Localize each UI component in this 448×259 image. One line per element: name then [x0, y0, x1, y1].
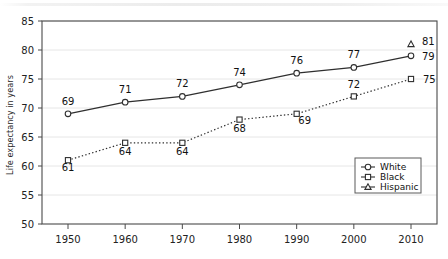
series-hispanic-marker-0: [408, 41, 414, 47]
series-white: [65, 53, 414, 117]
life-expectancy-chart: 5055606570758085 19501960197019801990200…: [0, 0, 448, 259]
series-black: [65, 76, 413, 162]
legend-swatch-white-marker-0: [365, 164, 371, 170]
series-white-marker-0: [65, 111, 71, 117]
data-label-black-2000: 72: [347, 79, 360, 90]
x-axis-ticks: 1950196019701980199020002010: [55, 224, 423, 245]
data-label-white-1960: 71: [119, 84, 132, 95]
y-tick-label-70: 70: [21, 103, 34, 114]
series-white-marker-4: [294, 70, 300, 76]
y-tick-label-85: 85: [21, 16, 34, 27]
y-tick-label-80: 80: [21, 45, 34, 56]
series-white-marker-5: [351, 65, 357, 71]
data-label-black-1960: 64: [119, 146, 132, 157]
x-tick-label-1980: 1980: [227, 234, 252, 245]
data-label-white-1970: 72: [176, 78, 189, 89]
series-black-marker-2: [180, 140, 185, 145]
x-tick-label-1990: 1990: [284, 234, 309, 245]
legend-label-white: White: [380, 162, 407, 172]
series-black-marker-5: [351, 94, 356, 99]
scan-artifact-line: [0, 3, 448, 6]
y-axis-ticks: 5055606570758085: [21, 16, 42, 230]
x-tick-label-2010: 2010: [398, 234, 423, 245]
legend-swatch-black-marker-1: [365, 174, 370, 179]
data-label-black-1970: 64: [176, 146, 189, 157]
series-white-marker-3: [237, 82, 243, 88]
x-tick-label-1960: 1960: [112, 234, 137, 245]
data-label-black-1980: 68: [233, 123, 246, 134]
y-tick-label-65: 65: [21, 132, 34, 143]
series-white-marker-2: [180, 94, 186, 100]
series-white-marker-6: [408, 53, 414, 59]
series-black-marker-6: [408, 76, 413, 81]
data-label-hispanic-2010: 81: [422, 36, 435, 47]
series-hispanic: [408, 41, 414, 47]
legend-label-black: Black: [380, 172, 405, 182]
data-label-white-1950: 69: [62, 96, 75, 107]
chart-legend[interactable]: WhiteBlackHispanic: [355, 158, 421, 193]
y-axis-title-text: Life expectancy in years: [5, 75, 15, 175]
data-series: [65, 41, 414, 163]
x-tick-label-2000: 2000: [341, 234, 366, 245]
data-label-white-2010: 79: [422, 51, 435, 62]
y-tick-label-60: 60: [21, 161, 34, 172]
data-label-white-1980: 74: [233, 67, 246, 78]
y-axis-title: Life expectancy in years: [5, 75, 15, 175]
chart-canvas: 5055606570758085 19501960197019801990200…: [0, 0, 448, 259]
y-tick-label-50: 50: [21, 219, 34, 230]
data-label-white-1990: 76: [290, 55, 303, 66]
data-point-labels: 697172747677796164646869727581: [62, 36, 436, 173]
y-tick-label-55: 55: [21, 190, 34, 201]
data-label-black-1950: 61: [62, 162, 75, 173]
series-white-marker-1: [122, 99, 128, 105]
x-tick-label-1950: 1950: [55, 234, 80, 245]
series-black-marker-1: [123, 140, 128, 145]
series-black-marker-3: [237, 117, 242, 122]
y-tick-label-75: 75: [21, 74, 34, 85]
data-label-black-1990: 69: [298, 115, 311, 126]
data-label-white-2000: 77: [347, 49, 360, 60]
data-label-black-2010: 75: [423, 74, 436, 85]
legend-label-hispanic: Hispanic: [380, 182, 418, 192]
x-tick-label-1970: 1970: [170, 234, 195, 245]
